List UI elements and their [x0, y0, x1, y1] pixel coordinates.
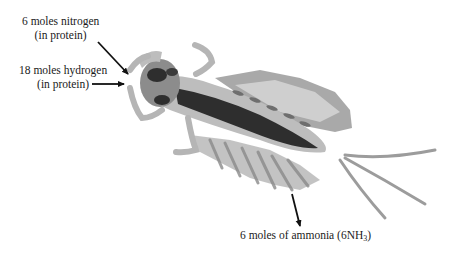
ammonia-arrow	[292, 194, 300, 226]
ammonia-label: 6 moles of ammonia (6NH3)	[240, 228, 371, 242]
nitrogen-label-line2: (in protein)	[22, 28, 99, 42]
hydrogen-label-line1: 18 moles hydrogen	[19, 63, 107, 77]
ammonia-label-text: 6 moles of ammonia (6NH	[240, 229, 363, 241]
hydrogen-label-line2: (in protein)	[19, 77, 107, 91]
nitrogen-label: 6 moles nitrogen (in protein)	[22, 14, 99, 42]
hydrogen-label: 18 moles hydrogen (in protein)	[19, 63, 107, 91]
ammonia-label-close: )	[367, 229, 371, 241]
nitrogen-label-line1: 6 moles nitrogen	[22, 14, 99, 28]
tail-filaments	[340, 150, 435, 218]
